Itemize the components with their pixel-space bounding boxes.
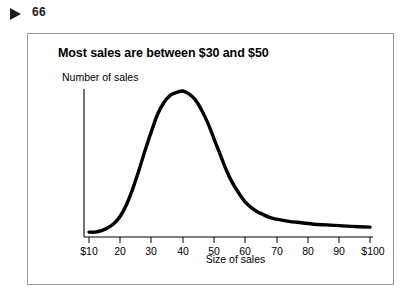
x-axis-ticks bbox=[89, 237, 370, 243]
x-axis-label-text: Size of sales bbox=[206, 253, 266, 265]
x-axis-label: Size of sales bbox=[28, 253, 395, 265]
distribution-chart: $10 20 30 40 50 60 70 80 90 $100 bbox=[28, 34, 395, 286]
figure-frame: Most sales are between $30 and $50 Numbe… bbox=[27, 33, 394, 285]
play-triangle-icon bbox=[10, 8, 21, 20]
distribution-curve bbox=[89, 91, 370, 232]
page-marker-row: 66 bbox=[0, 0, 420, 30]
page-number: 66 bbox=[32, 5, 46, 20]
